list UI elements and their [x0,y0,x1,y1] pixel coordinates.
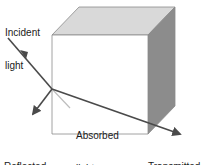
absorbed-label-line1: Absorbed [76,130,119,141]
absorbed-light-label: Absorbed light [76,108,119,165]
reflected-light-label: Reflected light [4,139,46,165]
incident-label-line2: light [5,60,40,71]
absorbed-label-line2: light [76,163,119,165]
incident-light-label: Incident light [5,5,40,82]
incident-label-line1: Incident [5,27,40,38]
transmitted-label-line1: Transmitted [148,161,200,165]
reflected-ray [33,89,52,114]
transmitted-light-label: Transmitted light [148,139,200,165]
reflected-label-line1: Reflected [4,161,46,165]
